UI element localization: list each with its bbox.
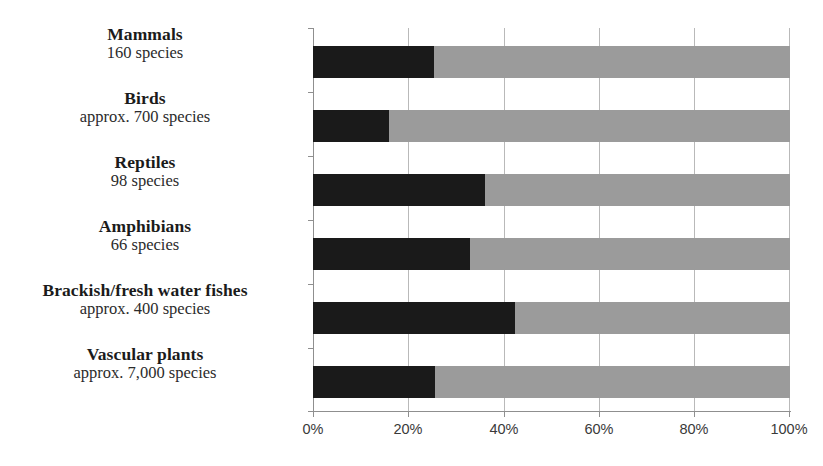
bar-segment-light: [434, 46, 790, 78]
category-label-reptiles: Reptiles 98 species: [0, 154, 290, 190]
gridline-60: [599, 28, 600, 411]
category-sublabel: 66 species: [0, 237, 290, 254]
y-tick: [308, 348, 314, 349]
bar-segment-light: [435, 366, 790, 398]
x-tick: [789, 411, 790, 417]
category-label-mammals: Mammals 160 species: [0, 26, 290, 62]
stacked-bar-chart: Mammals 160 species Birds approx. 700 sp…: [0, 0, 823, 466]
x-tick: [504, 411, 505, 417]
y-tick: [308, 28, 314, 29]
gridline-20: [408, 28, 409, 411]
category-name: Brackish/fresh water fishes: [0, 282, 290, 300]
category-name: Vascular plants: [0, 346, 290, 364]
bar-row: [313, 174, 790, 206]
bar-row: [313, 238, 790, 270]
bar-segment-light: [470, 238, 790, 270]
bar-segment-dark: [313, 46, 434, 78]
category-label-vascular-plants: Vascular plants approx. 7,000 species: [0, 346, 290, 382]
bar-segment-light: [485, 174, 790, 206]
category-sublabel: approx. 700 species: [0, 109, 290, 126]
gridline-40: [504, 28, 505, 411]
bar-row: [313, 302, 790, 334]
x-tick-label-100: 100%: [770, 421, 807, 437]
bar-segment-dark: [313, 366, 435, 398]
bar-row: [313, 46, 790, 78]
plot-area: [313, 28, 790, 411]
category-name: Amphibians: [0, 218, 290, 236]
gridline-80: [694, 28, 695, 411]
bar-segment-light: [389, 110, 790, 142]
gridline-100: [789, 28, 790, 411]
category-name: Birds: [0, 90, 290, 108]
bar-segment-dark: [313, 174, 485, 206]
y-tick: [308, 220, 314, 221]
category-label-amphibians: Amphibians 66 species: [0, 218, 290, 254]
bar-segment-dark: [313, 238, 470, 270]
y-tick: [308, 284, 314, 285]
x-tick: [599, 411, 600, 417]
y-tick: [308, 156, 314, 157]
bar-row: [313, 110, 790, 142]
x-tick-label-40: 40%: [489, 421, 518, 437]
category-sublabel: 98 species: [0, 173, 290, 190]
bar-segment-dark: [313, 302, 515, 334]
category-sublabel: 160 species: [0, 45, 290, 62]
x-tick-label-0: 0%: [303, 421, 324, 437]
x-tick-label-60: 60%: [584, 421, 613, 437]
category-sublabel: approx. 400 species: [0, 301, 290, 318]
x-tick-label-80: 80%: [679, 421, 708, 437]
x-tick: [408, 411, 409, 417]
bar-segment-light: [515, 302, 790, 334]
bar-segment-dark: [313, 110, 389, 142]
category-sublabel: approx. 7,000 species: [0, 365, 290, 382]
x-tick: [694, 411, 695, 417]
x-tick: [313, 411, 314, 417]
category-label-column: Mammals 160 species Birds approx. 700 sp…: [0, 0, 300, 466]
x-axis-spine: [313, 411, 791, 412]
category-name: Mammals: [0, 26, 290, 44]
category-label-birds: Birds approx. 700 species: [0, 90, 290, 126]
bar-row: [313, 366, 790, 398]
x-tick-label-20: 20%: [393, 421, 422, 437]
category-label-brackish-fresh-water-fishes: Brackish/fresh water fishes approx. 400 …: [0, 282, 290, 318]
y-tick: [308, 92, 314, 93]
category-name: Reptiles: [0, 154, 290, 172]
